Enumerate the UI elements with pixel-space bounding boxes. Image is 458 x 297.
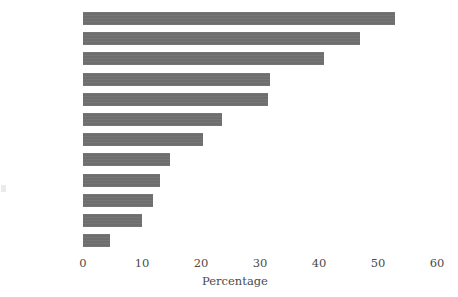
bar-row: US — [83, 111, 437, 131]
bar-pakistan — [83, 133, 203, 146]
bar-row: Hungary — [83, 172, 437, 192]
bar-brazil — [83, 153, 170, 166]
bar-spain — [83, 52, 324, 65]
x-tick-40: 40 — [299, 256, 339, 270]
bar-row: Spain — [83, 50, 437, 70]
x-tick-20: 20 — [181, 256, 221, 270]
bar-row: Pakistan — [83, 131, 437, 151]
x-tick-0: 0 — [63, 256, 103, 270]
x-tick-30: 30 — [240, 256, 280, 270]
bar-india — [83, 194, 153, 207]
bar-sweden — [83, 32, 360, 45]
bar-row: Germany — [83, 91, 437, 111]
bar-hungary — [83, 174, 160, 187]
bar-row: UK — [83, 71, 437, 91]
plot-area: CubaSwedenSpainUKGermanyUSPakistanBrazil… — [83, 8, 437, 255]
bar-row: India — [83, 192, 437, 212]
bar-row: Brazil — [83, 151, 437, 171]
bar-chart: CubaSwedenSpainUKGermanyUSPakistanBrazil… — [0, 0, 458, 297]
bar-row: Sweden — [83, 30, 437, 50]
x-axis-title: Percentage — [0, 274, 458, 288]
bar-cuba — [83, 12, 395, 25]
cropped-axis-label-artifact — [1, 185, 6, 192]
x-axis-title-text: Percentage — [202, 274, 268, 288]
bar-row: Japan — [83, 212, 437, 232]
bar-row: Cuba — [83, 10, 437, 30]
bar-kuwait — [83, 234, 110, 247]
x-tick-50: 50 — [358, 256, 398, 270]
bar-uk — [83, 73, 270, 86]
bar-us — [83, 113, 222, 126]
bar-germany — [83, 93, 268, 106]
bar-row: Kuwait — [83, 232, 437, 252]
bar-japan — [83, 214, 142, 227]
x-tick-10: 10 — [122, 256, 162, 270]
x-tick-60: 60 — [417, 256, 457, 270]
